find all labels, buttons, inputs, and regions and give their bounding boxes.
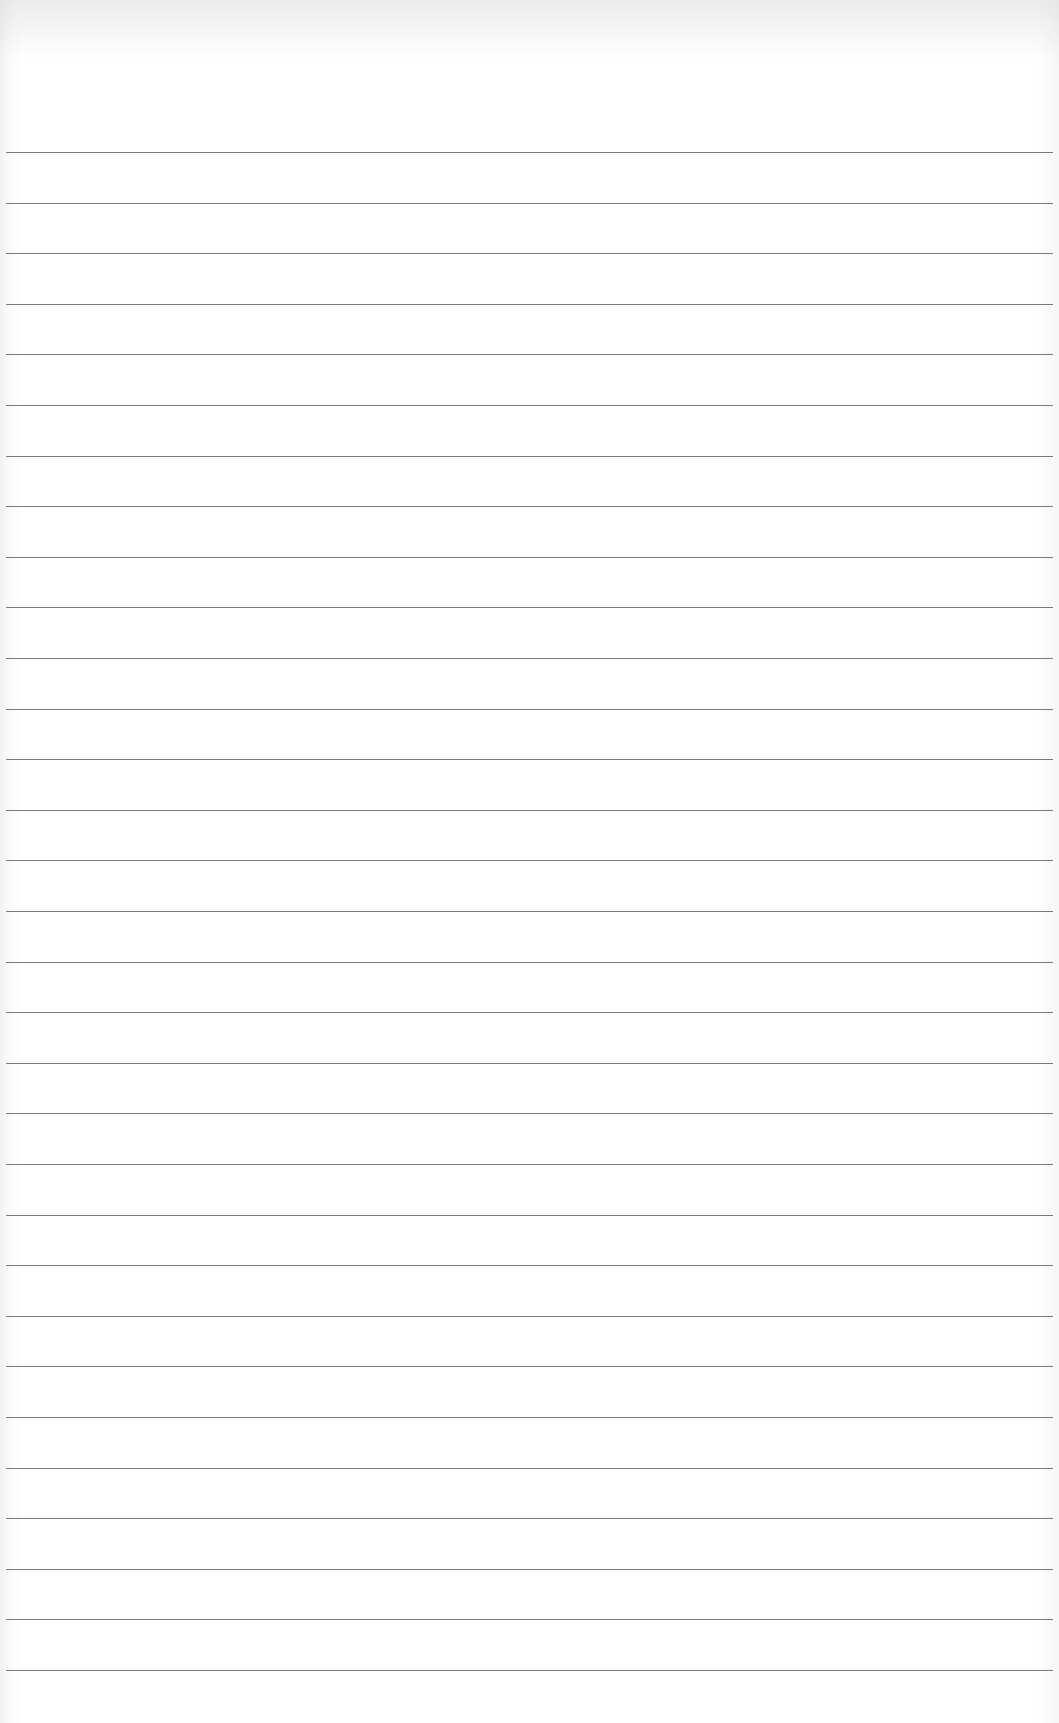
ruled-line [6,152,1053,153]
ruled-line [6,759,1053,760]
ruled-line [6,1265,1053,1266]
ruled-line [6,1670,1053,1671]
ruled-line [6,203,1053,204]
ruled-line [6,1063,1053,1064]
ruled-line [6,506,1053,507]
ruled-line [6,456,1053,457]
ruled-line [6,1113,1053,1114]
ruled-line [6,1417,1053,1418]
lined-paper-sheet [0,0,1059,1723]
ruled-line [6,1012,1053,1013]
ruled-line [6,860,1053,861]
ruled-line [6,1569,1053,1570]
ruled-line [6,1215,1053,1216]
top-bleed-through-shadow [0,0,1059,60]
ruled-line [6,911,1053,912]
ruled-line [6,1468,1053,1469]
ruled-line [6,810,1053,811]
ruled-line [6,405,1053,406]
ruled-line [6,253,1053,254]
ruled-line [6,1164,1053,1165]
ruled-line [6,1518,1053,1519]
ruled-line [6,962,1053,963]
ruled-line [6,658,1053,659]
ruled-line [6,709,1053,710]
ruled-line [6,1366,1053,1367]
ruled-line [6,1619,1053,1620]
ruled-line [6,1316,1053,1317]
ruled-line [6,354,1053,355]
ruled-line [6,607,1053,608]
ruled-line [6,304,1053,305]
ruled-line [6,557,1053,558]
